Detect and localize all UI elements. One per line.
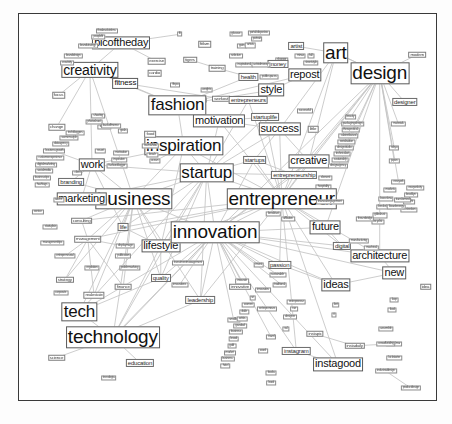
network-node[interactable]: word — [258, 348, 268, 353]
network-node[interactable]: travel — [266, 335, 276, 340]
network-node[interactable]: designer — [283, 315, 297, 320]
network-node[interactable]: cardio — [147, 70, 162, 76]
network-node[interactable]: book — [266, 381, 276, 386]
network-node[interactable]: style — [258, 84, 284, 97]
network-node[interactable]: food — [388, 308, 397, 313]
network-node[interactable]: fashionblogger — [107, 164, 128, 169]
network-node[interactable]: businessgrowth — [43, 149, 65, 154]
network-node[interactable]: beauty — [345, 115, 357, 120]
network-node[interactable]: japan — [389, 159, 399, 164]
network-node[interactable]: designer — [392, 98, 417, 106]
network-node[interactable]: invest — [253, 262, 264, 267]
network-node[interactable]: sustainably — [332, 158, 349, 163]
network-node[interactable]: food — [144, 131, 156, 137]
network-node[interactable]: actividmoney — [251, 62, 270, 67]
network-node[interactable]: streetstyle — [303, 61, 318, 66]
network-node[interactable]: innovation — [171, 222, 260, 243]
network-node[interactable]: work — [79, 158, 105, 171]
network-node[interactable]: goals — [118, 128, 128, 133]
network-node[interactable]: portafolioposteo — [248, 30, 270, 35]
network-node[interactable]: new — [383, 266, 407, 279]
network-node[interactable]: ideas — [321, 278, 350, 291]
network-node[interactable]: productdesign — [401, 386, 421, 391]
network-node[interactable]: strategy — [56, 277, 74, 283]
network-node[interactable]: travelandia — [142, 144, 158, 149]
network-node[interactable]: training — [209, 65, 226, 71]
network-node[interactable]: hotel — [221, 364, 231, 369]
network-node[interactable]: successful — [297, 108, 313, 113]
network-node[interactable]: fitspo — [170, 83, 180, 88]
network-node[interactable]: management — [74, 236, 102, 242]
network-node[interactable]: assemble — [378, 326, 393, 331]
network-node[interactable]: entrepreneurial — [54, 254, 75, 259]
network-node[interactable]: finance — [115, 283, 132, 289]
network-node[interactable]: barcelona — [378, 196, 393, 201]
network-node[interactable]: advert — [53, 198, 64, 203]
network-node[interactable]: business — [220, 357, 234, 362]
network-node[interactable]: newyorkcity — [406, 186, 423, 191]
network-node[interactable]: modern — [408, 51, 426, 57]
network-node[interactable]: shooting — [91, 113, 105, 118]
network-node[interactable]: bet — [332, 303, 340, 308]
network-node[interactable]: art — [323, 42, 349, 63]
network-node[interactable]: exercise — [147, 58, 166, 64]
network-node[interactable]: entrepreneur — [287, 299, 306, 304]
network-node[interactable]: designstudio — [335, 146, 353, 151]
network-node[interactable]: it — [331, 313, 336, 318]
network-node[interactable]: businesstips — [33, 176, 51, 181]
network-node[interactable]: publication — [115, 254, 131, 259]
network-node[interactable]: publicspaces — [260, 74, 279, 79]
network-node[interactable]: entrepreneurs — [229, 96, 268, 104]
network-node[interactable]: financialengagement — [316, 199, 344, 204]
network-node[interactable]: branding — [58, 178, 84, 186]
network-node[interactable]: selective — [229, 54, 243, 59]
network-node[interactable]: fashion — [149, 96, 206, 115]
network-node[interactable]: little — [308, 126, 319, 132]
network-node[interactable]: ocean — [149, 159, 160, 164]
network-node[interactable]: managementtips — [41, 240, 64, 245]
network-node[interactable]: tigers — [183, 56, 197, 62]
network-node[interactable]: packagingdesign — [341, 122, 365, 127]
network-node[interactable]: boardenergy — [387, 204, 406, 209]
network-node[interactable]: leadership — [186, 296, 216, 304]
network-node[interactable]: corporate — [53, 291, 68, 296]
network-node[interactable]: manufacturing — [349, 238, 369, 243]
network-node[interactable]: hashtags — [35, 182, 50, 187]
network-node[interactable]: brandstrategy — [78, 44, 98, 49]
network-node[interactable]: designagency — [328, 164, 348, 169]
network-node[interactable]: gold — [227, 343, 236, 348]
network-node[interactable]: innovators — [255, 287, 271, 292]
network-node[interactable]: therapeutical — [341, 128, 360, 133]
network-node[interactable]: consulting — [71, 217, 93, 223]
network-node[interactable]: inspiration — [111, 157, 126, 162]
network-node[interactable]: freezebridge — [356, 216, 374, 221]
network-node[interactable]: repost — [288, 68, 321, 81]
network-node[interactable]: element — [319, 176, 332, 181]
network-node[interactable]: creativity — [60, 61, 74, 66]
network-node[interactable]: transformed — [394, 198, 412, 203]
network-node[interactable]: fitfam — [198, 41, 212, 47]
network-node[interactable]: instadaily — [345, 343, 365, 349]
network-node[interactable]: innovative — [229, 283, 251, 289]
network-node[interactable]: artist — [288, 42, 304, 50]
network-node[interactable]: loop — [390, 298, 399, 303]
network-node[interactable]: quality — [151, 274, 171, 282]
network-node[interactable]: displaymage — [116, 243, 135, 248]
network-node[interactable]: materials — [391, 122, 405, 127]
network-node[interactable]: startups — [243, 156, 267, 164]
network-node[interactable]: market — [224, 350, 236, 355]
network-node[interactable]: science — [48, 354, 66, 360]
network-node[interactable]: brand — [228, 337, 239, 342]
network-node[interactable]: fitness — [112, 78, 138, 88]
network-node[interactable]: creative — [288, 155, 329, 168]
network-node[interactable]: sustainable — [269, 272, 286, 277]
network-node[interactable]: service — [32, 210, 44, 215]
network-node[interactable]: future — [310, 221, 341, 234]
network-node[interactable]: customerexperience — [37, 155, 64, 160]
network-node[interactable]: fall — [307, 54, 314, 59]
network-node[interactable]: fit — [177, 32, 183, 37]
network-node[interactable]: passion — [268, 260, 291, 268]
network-node[interactable]: startupbiz — [43, 225, 58, 230]
network-node[interactable]: instapic — [306, 331, 323, 337]
network-node[interactable]: problemsolving — [119, 265, 140, 270]
